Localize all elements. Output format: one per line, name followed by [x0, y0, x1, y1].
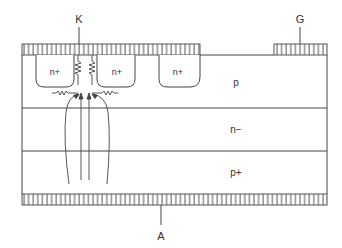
vertical-resistors: [75, 55, 95, 85]
n-plus-label-1: n+: [50, 67, 60, 77]
cathode-label: K: [75, 13, 83, 25]
current-flow-lines: [65, 92, 109, 184]
n-plus-label-2: n+: [112, 67, 122, 77]
p-emitter-label: p+: [230, 167, 242, 178]
lateral-resistors: [52, 91, 118, 95]
anode-label: A: [157, 230, 165, 242]
anode-metal: [22, 194, 327, 205]
n-base-label: n−: [230, 124, 242, 135]
gate-metal: [274, 44, 327, 55]
p-base-label: p: [233, 77, 239, 88]
gate-label: G: [296, 13, 305, 25]
thyristor-cross-section: K G A n+ n+ n+ p n− p+: [0, 0, 342, 248]
n-plus-label-3: n+: [173, 67, 183, 77]
cathode-metal: [22, 44, 200, 55]
